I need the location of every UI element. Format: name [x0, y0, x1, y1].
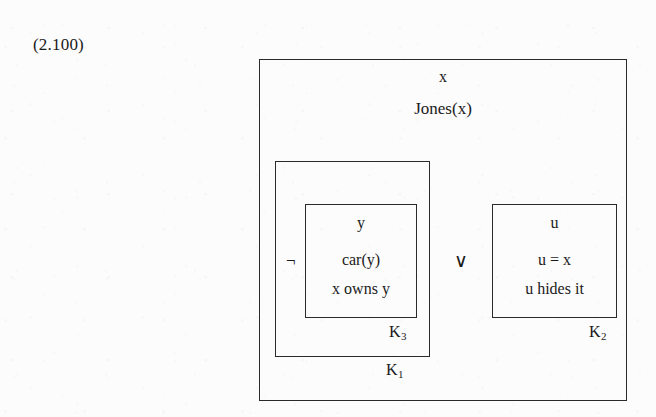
k2-box-label: K2: [589, 324, 606, 340]
k1-box-label: K1: [386, 362, 403, 378]
k1-label-base: K: [386, 361, 398, 378]
figure-canvas: (2.100) x Jones(x) ¬ y car(y) x owns y K…: [0, 0, 656, 417]
k3-label-subscript: 3: [401, 330, 407, 342]
k3-label-base: K: [389, 323, 401, 340]
k3-box-label: K3: [389, 324, 406, 340]
k3-drs-condition-car: car(y): [306, 252, 416, 268]
equation-number: (2.100): [33, 35, 84, 55]
k2-label-subscript: 2: [601, 330, 607, 342]
k1-label-subscript: 1: [398, 368, 404, 380]
k2-drs-condition-hides: u hides it: [493, 281, 616, 297]
outer-drs-universe: x: [260, 69, 626, 85]
k3-drs-universe: y: [306, 215, 416, 231]
k2-label-base: K: [589, 323, 601, 340]
k2-drs-box: u u = x u hides it: [492, 204, 617, 318]
outer-drs-condition-jones: Jones(x): [260, 100, 626, 117]
k3-drs-box: y car(y) x owns y: [305, 204, 417, 318]
disjunction-operator-icon: ∨: [454, 251, 468, 270]
k2-drs-universe: u: [493, 215, 616, 231]
negation-operator-icon: ¬: [286, 252, 296, 269]
k3-drs-condition-owns: x owns y: [306, 281, 416, 297]
k2-drs-condition-equality: u = x: [493, 252, 616, 268]
